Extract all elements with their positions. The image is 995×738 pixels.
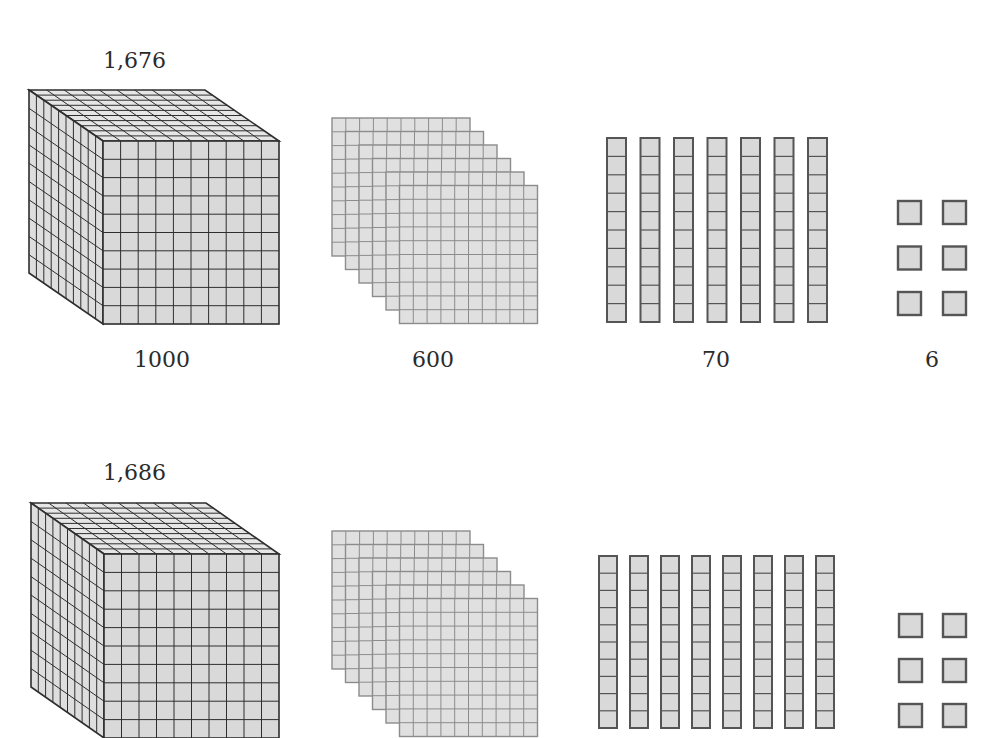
unit-cube <box>943 704 966 727</box>
unit-cubes <box>0 0 995 738</box>
unit-cube <box>943 659 966 682</box>
unit-cube <box>943 614 966 637</box>
base-ten-row-2: 1,686 <box>0 0 995 738</box>
unit-cube <box>899 659 922 682</box>
unit-cube <box>899 614 922 637</box>
unit-cube <box>899 704 922 727</box>
